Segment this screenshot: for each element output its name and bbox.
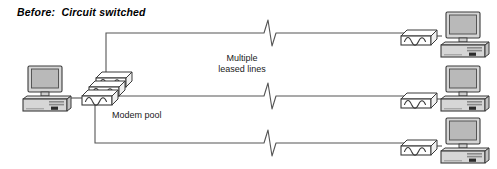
remote-site-3 [401, 118, 489, 163]
client-workstation [23, 66, 71, 111]
remote-site-2 [401, 66, 489, 111]
modem-pool-stack [82, 72, 132, 105]
remote-site-1 [401, 12, 489, 57]
network-diagram: Before: Circuit switched [0, 0, 497, 169]
label-modem-pool: Modem pool [112, 110, 162, 121]
connection-lines [71, 33, 442, 146]
diagram-canvas [0, 0, 497, 169]
label-multiple-leased-lines-line2: leased lines [206, 64, 278, 75]
line-break-symbols [259, 20, 281, 156]
label-multiple-leased-lines-line1: Multiple [206, 53, 278, 64]
